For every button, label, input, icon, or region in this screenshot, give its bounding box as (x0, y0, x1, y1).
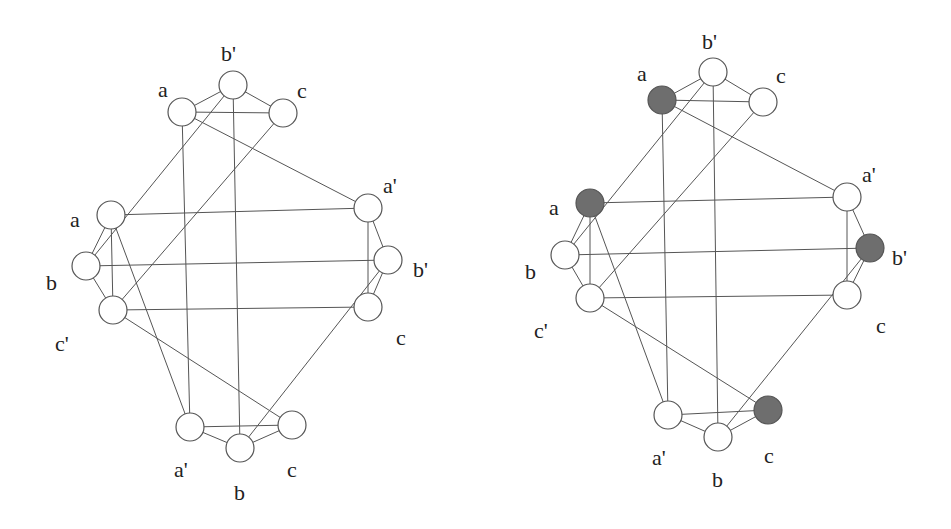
right-graph-edges (565, 72, 870, 437)
node-label: c (297, 78, 307, 103)
node-L_c (576, 284, 604, 312)
node-R_c (833, 281, 861, 309)
node-B_b (226, 434, 254, 462)
edge-L_a-R_a (111, 208, 368, 215)
edge-T_a-B_a (662, 100, 668, 415)
left-graph-edges (86, 85, 388, 448)
filled-node-L_a (576, 189, 604, 217)
node-label: a (637, 61, 647, 86)
node-R_c (354, 293, 382, 321)
node-label: c' (534, 318, 548, 343)
edge-T_b-B_b (233, 85, 240, 448)
node-label: c (396, 325, 406, 350)
node-B_b (704, 423, 732, 451)
edge-T_b-L_b (86, 85, 233, 266)
edge-L_c-R_c (590, 295, 847, 298)
node-label: a' (174, 457, 188, 482)
edge-L_c-B_c (590, 298, 768, 410)
node-label: c (764, 443, 774, 468)
node-label: a (158, 77, 168, 102)
graph-figure: ab'cabc'a'b'ca'bc ab'cabc'a'b'ca'bc (0, 0, 951, 529)
edge-T_b-L_b (565, 72, 713, 255)
filled-node-T_a (648, 86, 676, 114)
node-label: c (287, 457, 297, 482)
edge-T_a-T_c (662, 100, 763, 102)
node-T_b (699, 58, 727, 86)
node-B_a (176, 413, 204, 441)
edge-L_b-R_b (86, 260, 388, 266)
edge-T_a-T_c (182, 112, 283, 113)
node-L_b (551, 241, 579, 269)
node-label: a (549, 195, 559, 220)
node-label: b' (702, 29, 717, 54)
edge-L_a-R_a (590, 197, 847, 203)
node-label: c (876, 313, 886, 338)
node-B_c (278, 411, 306, 439)
edge-T_a-R_a (662, 100, 847, 197)
node-L_a (97, 201, 125, 229)
node-label: b' (413, 257, 428, 282)
node-B_a (654, 401, 682, 429)
node-label: a' (383, 173, 397, 198)
edge-R_b-B_b (240, 260, 388, 448)
edge-L_b-R_b (565, 248, 870, 255)
node-label: b (712, 467, 723, 492)
node-label: b' (892, 245, 907, 270)
edge-L_c-B_c (113, 310, 292, 425)
edge-T_b-B_b (713, 72, 718, 437)
filled-node-R_b (856, 234, 884, 262)
node-T_a (168, 98, 196, 126)
node-label: a (70, 207, 80, 232)
edge-L_c-R_c (113, 307, 368, 310)
node-label: c (776, 63, 786, 88)
edge-B_a-B_c (190, 425, 292, 427)
node-R_b (374, 246, 402, 274)
edge-R_b-B_b (718, 248, 870, 437)
edge-L_a-B_a (111, 215, 190, 427)
node-T_c (269, 99, 297, 127)
edge-L_a-B_a (590, 203, 668, 415)
diagram-canvas: ab'cabc'a'b'ca'bc ab'cabc'a'b'ca'bc (0, 0, 951, 529)
node-R_a (833, 183, 861, 211)
node-label: c' (55, 331, 69, 356)
edge-T_a-B_a (182, 112, 190, 427)
node-L_b (72, 252, 100, 280)
node-T_b (219, 71, 247, 99)
edge-T_a-R_a (182, 112, 368, 208)
node-R_a (354, 194, 382, 222)
node-label: b (234, 480, 245, 505)
node-T_c (749, 88, 777, 116)
node-label: b' (221, 41, 236, 66)
node-label: b (46, 270, 57, 295)
node-label: b (525, 259, 536, 284)
right-graph: ab'cabc'a'b'ca'bc (525, 29, 907, 492)
filled-node-B_c (754, 396, 782, 424)
node-L_c (99, 296, 127, 324)
left-graph: ab'cabc'a'b'ca'bc (46, 41, 428, 505)
node-label: a' (652, 445, 666, 470)
node-label: a' (862, 162, 876, 187)
